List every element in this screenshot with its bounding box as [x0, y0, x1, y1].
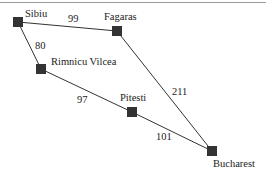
edge-weight-label: 99: [68, 13, 79, 24]
edge-rimnicu_vilcea-pitesti: [41, 69, 132, 112]
node-pitesti: [127, 107, 137, 117]
node-sibiu: [13, 17, 23, 27]
edge-weight-label: 97: [77, 94, 88, 105]
node-bucharest: [207, 146, 217, 156]
edge-weight-label: 101: [156, 131, 172, 142]
node-label-pitesti: Pitesti: [120, 92, 146, 103]
edge-pitesti-bucharest: [132, 112, 212, 151]
edge-weight-label: 211: [172, 86, 187, 97]
node-fagaras: [112, 26, 122, 36]
node-labels: SibiuFagarasRimnicu VilceaPitestiBuchare…: [25, 8, 255, 169]
edge-weight-label: 80: [35, 40, 46, 51]
node-label-bucharest: Bucharest: [213, 158, 255, 169]
node-rimnicu_vilcea: [36, 64, 46, 74]
route-graph: 998097211101 SibiuFagarasRimnicu VilceaP…: [0, 0, 266, 180]
node-label-rimnicu_vilcea: Rimnicu Vilcea: [51, 56, 117, 67]
node-label-fagaras: Fagaras: [104, 11, 137, 22]
node-label-sibiu: Sibiu: [25, 8, 48, 19]
